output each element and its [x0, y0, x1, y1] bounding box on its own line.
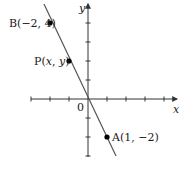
x-axis-label: x [173, 103, 180, 116]
coordinate-diagram: x y 0 B(−2, 4) P(x, y) A(1, −2) [0, 0, 185, 170]
point-p-label: P(x, y) [34, 55, 69, 68]
origin-label: 0 [77, 101, 84, 114]
point-b-label: B(−2, 4) [9, 17, 56, 30]
y-axis-label: y [78, 2, 86, 15]
point-a-label: A(1, −2) [111, 131, 159, 144]
point-a [104, 134, 109, 139]
